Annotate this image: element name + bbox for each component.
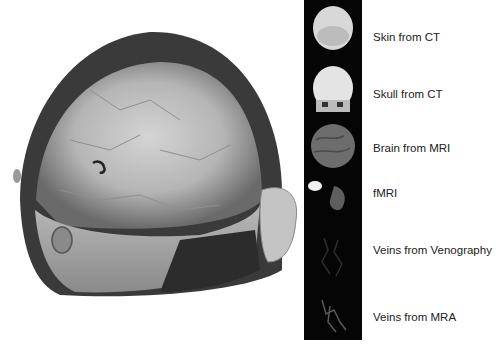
mra-thumbnail — [304, 292, 362, 338]
label-fmri: fMRI — [373, 187, 397, 199]
label-brain-mri: Brain from MRI — [373, 142, 450, 154]
label-skin-ct: Skin from CT — [373, 31, 440, 43]
skull-ct-thumbnail — [304, 62, 362, 118]
fmri-thumbnail — [304, 176, 362, 226]
venography-thumbnail — [304, 228, 362, 286]
label-skull-ct: Skull from CT — [373, 88, 443, 100]
label-veins-mra: Veins from MRA — [373, 311, 456, 323]
skin-ct-thumbnail — [304, 2, 362, 58]
label-veins-venography: Veins from Venography — [373, 244, 492, 256]
head-3d-rendering — [0, 0, 300, 357]
brain-mri-thumbnail — [304, 120, 362, 174]
modality-strip — [304, 0, 362, 340]
